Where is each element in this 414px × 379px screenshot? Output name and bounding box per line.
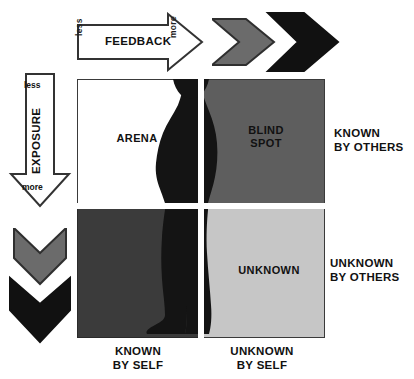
exposure-axis-arrow: less EXPOSURE more <box>8 72 72 208</box>
quadrant-label-blind-spot: BLIND SPOT <box>227 124 305 150</box>
feedback-less-label: less <box>74 18 84 36</box>
double-chevron-down-icon <box>8 228 72 344</box>
feedback-more-label: more <box>168 16 178 38</box>
row-label-known-by-others: KNOWN BY OTHERS <box>334 126 414 154</box>
quadrant-label-arena: ARENA <box>98 132 176 145</box>
quadrant-hidden[interactable] <box>77 207 199 338</box>
row-label-unknown-by-others: UNKNOWN BY OTHERS <box>330 256 414 284</box>
column-label-known-by-self: KNOWN BY SELF <box>77 344 199 372</box>
chevron-gray <box>14 228 66 284</box>
johari-quadrant-grid: ARENA BLIND SPOT UNKNOWN <box>77 79 325 338</box>
exposure-axis-label: EXPOSURE <box>30 108 42 174</box>
column-label-unknown-by-self: UNKNOWN BY SELF <box>200 344 324 372</box>
chevron-black <box>268 13 338 71</box>
feedback-axis-arrow: less FEEDBACK more <box>76 12 204 72</box>
chevron-gray <box>212 19 274 65</box>
chevron-black <box>10 278 70 342</box>
double-chevron-right-icon <box>212 11 340 73</box>
horizontal-divider <box>77 203 325 209</box>
exposure-more-label: more <box>22 182 43 192</box>
exposure-less-label: less <box>24 80 41 90</box>
feedback-axis-label: FEEDBACK <box>105 35 171 47</box>
quadrant-label-unknown: UNKNOWN <box>223 264 315 277</box>
johari-window-diagram: less FEEDBACK more less EXPOSURE more <box>0 0 414 379</box>
